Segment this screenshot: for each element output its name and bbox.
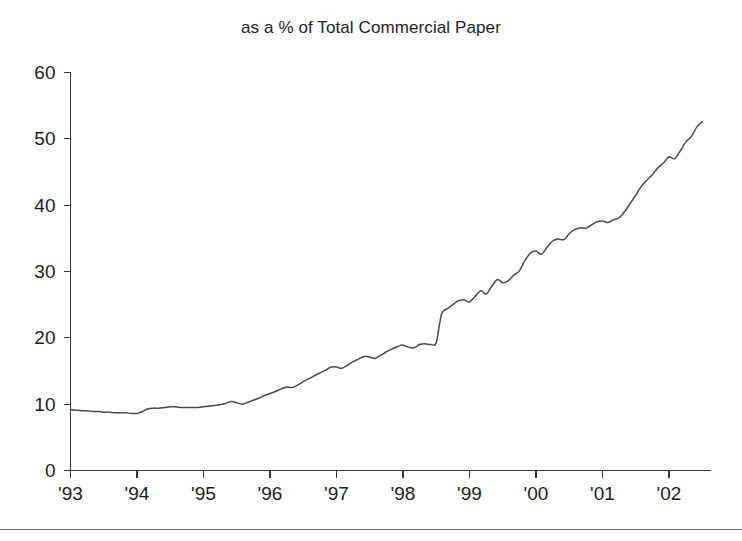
y-tick-label: 40 — [34, 195, 55, 216]
x-tick-label: '94 — [125, 483, 150, 504]
x-tick-label: '95 — [191, 483, 216, 504]
x-tick-label: '00 — [524, 483, 549, 504]
x-axis: '93'94'95'96'97'98'99'00'01'02 — [58, 471, 710, 504]
data-series-group — [71, 122, 703, 414]
x-tick-label: '01 — [590, 483, 615, 504]
x-tick-label: '93 — [58, 483, 83, 504]
y-tick-label: 10 — [34, 394, 55, 415]
y-tick-label: 30 — [34, 261, 55, 282]
y-tick-label: 20 — [34, 327, 55, 348]
line-chart-plot: 0102030405060 '93'94'95'96'97'98'99'00'0… — [0, 0, 742, 541]
footer-divider — [0, 529, 742, 530]
x-tick-label: '98 — [391, 483, 416, 504]
x-tick-label: '97 — [324, 483, 349, 504]
data-line-series — [71, 122, 703, 414]
y-tick-label: 0 — [45, 460, 56, 481]
x-tick-label: '96 — [258, 483, 283, 504]
y-tick-label: 60 — [34, 62, 55, 83]
y-axis: 0102030405060 — [34, 62, 70, 481]
chart-figure: as a % of Total Commercial Paper 0102030… — [0, 0, 742, 541]
y-tick-label: 50 — [34, 128, 55, 149]
x-tick-label: '02 — [657, 483, 682, 504]
x-tick-label: '99 — [457, 483, 482, 504]
